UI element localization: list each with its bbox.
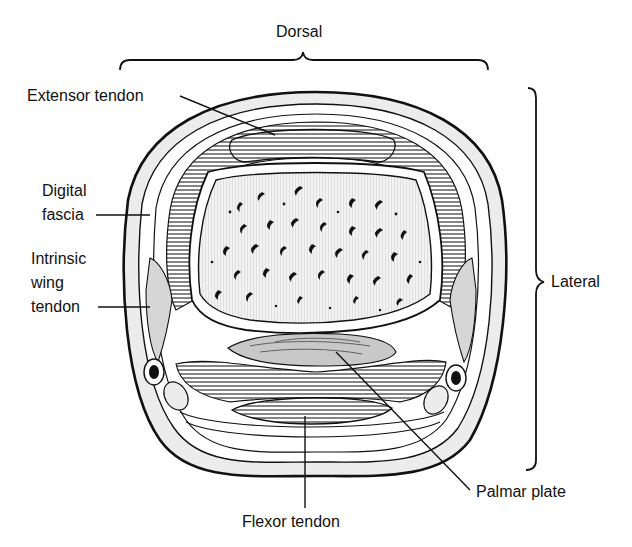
- label-digital-fascia-line1: Digital: [42, 181, 86, 200]
- label-extensor-tendon: Extensor tendon: [27, 86, 144, 105]
- dorsal-brace: [120, 52, 488, 70]
- label-intrinsic-line2: wing: [31, 273, 64, 292]
- cross-section-illustration: [0, 0, 632, 547]
- lateral-brace: [526, 88, 544, 470]
- label-dorsal: Dorsal: [276, 22, 322, 41]
- phalanx-bone: [199, 173, 432, 324]
- label-flexor-tendon: Flexor tendon: [242, 512, 340, 531]
- label-palmar-plate: Palmar plate: [476, 482, 566, 501]
- label-lateral: Lateral: [551, 272, 600, 291]
- label-intrinsic-line1: Intrinsic: [31, 249, 86, 268]
- extensor-tendon-shape: [230, 130, 395, 163]
- label-digital-fascia-line2: fascia: [42, 205, 84, 224]
- label-intrinsic-line3: tendon: [31, 297, 80, 316]
- diagram-canvas: Dorsal Extensor tendon Digital fascia In…: [0, 0, 632, 547]
